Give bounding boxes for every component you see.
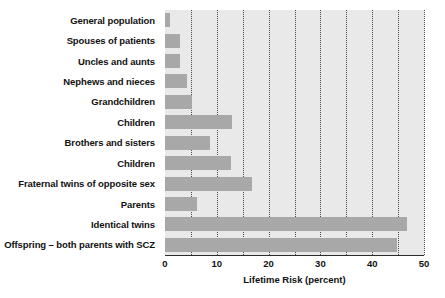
category-label: Spouses of patients	[0, 30, 160, 50]
category-label: Uncles and aunts	[0, 51, 160, 71]
category-label: Fraternal twins of opposite sex	[0, 173, 160, 193]
bar	[165, 13, 170, 27]
bar-row	[165, 194, 424, 214]
category-label: Children	[0, 153, 160, 173]
bar	[165, 136, 210, 150]
bar-row	[165, 153, 424, 173]
bar-row	[165, 133, 424, 153]
category-label: Identical twins	[0, 214, 160, 234]
bar-row	[165, 10, 424, 30]
gridline	[424, 10, 426, 255]
x-tick-label: 40	[367, 258, 378, 269]
category-label: General population	[0, 10, 160, 30]
bar	[165, 217, 407, 231]
bar	[165, 197, 197, 211]
bar-row	[165, 51, 424, 71]
bar	[165, 95, 192, 109]
bar-row	[165, 235, 424, 255]
bar-series	[165, 10, 424, 255]
category-label: Grandchildren	[0, 92, 160, 112]
category-label: Parents	[0, 194, 160, 214]
bar-row	[165, 30, 424, 50]
x-tick-label: 30	[315, 258, 326, 269]
x-tick-label: 50	[419, 258, 430, 269]
bar	[165, 74, 187, 88]
bar-row	[165, 92, 424, 112]
x-tick-label: 0	[162, 258, 167, 269]
bar-row	[165, 214, 424, 234]
chart-figure: General population Spouses of patients U…	[0, 0, 445, 298]
x-axis-ticklabels: 01020304050	[165, 258, 424, 272]
bar-row	[165, 71, 424, 91]
bar-row	[165, 173, 424, 193]
x-axis-line	[165, 255, 424, 256]
category-label: Offspring – both parents with SCZ	[0, 235, 160, 255]
bar	[165, 34, 180, 48]
bar	[165, 156, 231, 170]
bar-row	[165, 112, 424, 132]
bar	[165, 54, 180, 68]
bar	[165, 238, 397, 252]
x-tick-label: 10	[212, 258, 223, 269]
category-label: Children	[0, 112, 160, 132]
bar	[165, 115, 232, 129]
category-label: Nephews and nieces	[0, 71, 160, 91]
x-tick-label: 20	[263, 258, 274, 269]
category-label-column: General population Spouses of patients U…	[0, 10, 160, 255]
plot-area	[165, 10, 424, 255]
bar	[165, 177, 252, 191]
x-axis-title: Lifetime Risk (percent)	[165, 274, 424, 285]
category-label: Brothers and sisters	[0, 133, 160, 153]
